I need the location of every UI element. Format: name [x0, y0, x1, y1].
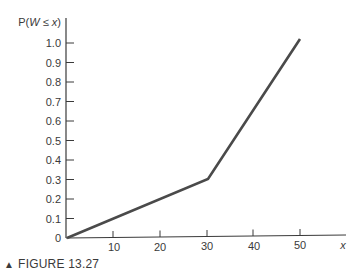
x-tick-label: 50: [294, 239, 306, 251]
x-tick-label: 20: [154, 241, 166, 253]
y-tick-label: 0.6: [46, 115, 61, 127]
y-tick-label: 0.5: [46, 135, 61, 147]
x-axis-title: x: [339, 239, 346, 251]
triangle-marker-icon: ▲: [4, 259, 14, 270]
x-tick-label: 40: [248, 240, 260, 252]
x-tick-label: 10: [108, 241, 120, 253]
figure-caption: ▲FIGURE 13.27: [4, 257, 99, 271]
cdf-chart: 1.0 0.9 0.8 0.7 0.6 0.5 0.4 0.3 0.2 0.1 …: [0, 0, 363, 279]
y-tick-label: 0.7: [46, 96, 61, 108]
x-tick-label: 30: [201, 240, 213, 252]
x-axis: [66, 235, 346, 238]
y-axis-title: P(W ≤ x): [18, 16, 61, 28]
origin-label: 0: [55, 232, 61, 244]
y-tick-label: 0.9: [46, 57, 61, 69]
y-tick-labels: 1.0 0.9 0.8 0.7 0.6 0.5 0.4 0.3 0.2 0.1 …: [46, 37, 61, 244]
y-tick-label: 0.8: [46, 76, 61, 88]
y-tick-label: 0.3: [46, 174, 61, 186]
cdf-line: [67, 39, 300, 238]
y-ticks: [66, 43, 74, 219]
y-tick-label: 0.2: [46, 193, 61, 205]
y-tick-label: 0.4: [46, 154, 61, 166]
x-tick-labels: 10 20 30 40 50: [108, 239, 306, 253]
y-tick-label: 1.0: [46, 37, 61, 49]
y-tick-label: 0.1: [46, 213, 61, 225]
caption-text: FIGURE 13.27: [18, 257, 99, 271]
